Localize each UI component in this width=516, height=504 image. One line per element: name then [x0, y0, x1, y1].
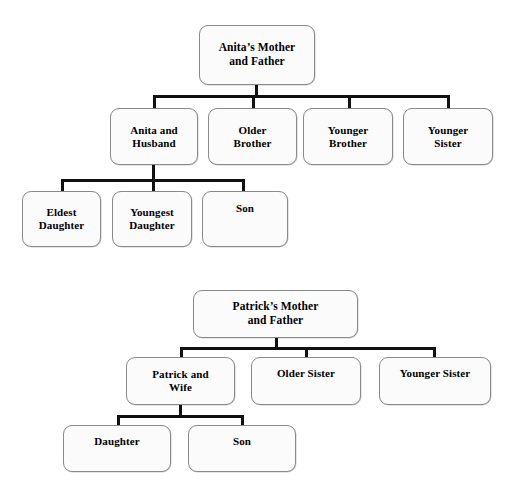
node-line-2: Brother [325, 137, 371, 150]
node-line-1: Younger [425, 124, 471, 137]
node-patrick-and-wife[interactable]: Patrick and Wife [126, 357, 235, 405]
node-patricks-mother-and-father[interactable]: Patrick’s Mother and Father [193, 290, 358, 338]
node-older-sister[interactable]: Older Sister [251, 357, 361, 405]
node-line-2: Daughter [36, 219, 87, 232]
node-line-1: Eldest [36, 206, 87, 219]
node-line-1: Daughter [91, 435, 142, 448]
node-line-1: Anita and [127, 124, 181, 137]
node-line-2: Sister [425, 137, 471, 150]
node-younger-sister-patrick[interactable]: Younger Sister [379, 357, 491, 405]
node-line-1: Son [230, 435, 254, 448]
node-son-patrick[interactable]: Son [188, 425, 296, 472]
connector-anita-gen2-drop-2 [252, 95, 255, 109]
node-line-1: Anita’s Mother [216, 41, 299, 55]
node-line-2: and Father [216, 55, 299, 69]
node-line-2: Wife [149, 381, 211, 394]
node-line-2: and Father [230, 314, 322, 328]
node-line-1: Patrick and [149, 368, 211, 381]
connector-patrick-gen3-bus [117, 415, 244, 418]
node-line-1: Older Sister [274, 367, 338, 380]
node-line-1: Patrick’s Mother [230, 300, 322, 314]
family-tree-diagram: Anita’s Mother and Father Anita and Husb… [0, 0, 516, 504]
node-line-1: Younger Sister [397, 367, 474, 380]
node-younger-sister-anita[interactable]: Younger Sister [403, 108, 493, 165]
node-daughter-patrick[interactable]: Daughter [63, 425, 171, 472]
node-line-1: Younger [325, 124, 371, 137]
node-line-1: Older [231, 124, 275, 137]
node-line-1: Youngest [126, 206, 177, 219]
node-younger-brother[interactable]: Younger Brother [303, 108, 393, 165]
node-anitas-mother-and-father[interactable]: Anita’s Mother and Father [199, 25, 315, 85]
connector-anita-gen2-bus [153, 95, 450, 98]
node-line-2: Daughter [126, 219, 177, 232]
node-anita-and-husband[interactable]: Anita and Husband [110, 108, 198, 165]
connector-anita-gen2-drop-3 [348, 95, 351, 109]
connector-patrick-gen2-bus [180, 347, 436, 350]
node-son-anita[interactable]: Son [202, 191, 288, 247]
connector-anita-gen2-drop-4 [447, 95, 450, 109]
node-eldest-daughter[interactable]: Eldest Daughter [22, 191, 101, 247]
node-line-2: Brother [231, 137, 275, 150]
connector-anita-gen2-drop-1 [153, 95, 156, 109]
node-older-brother[interactable]: Older Brother [208, 108, 297, 165]
node-line-2: Husband [127, 137, 181, 150]
node-line-1: Son [233, 202, 257, 215]
node-youngest-daughter[interactable]: Youngest Daughter [112, 191, 192, 247]
